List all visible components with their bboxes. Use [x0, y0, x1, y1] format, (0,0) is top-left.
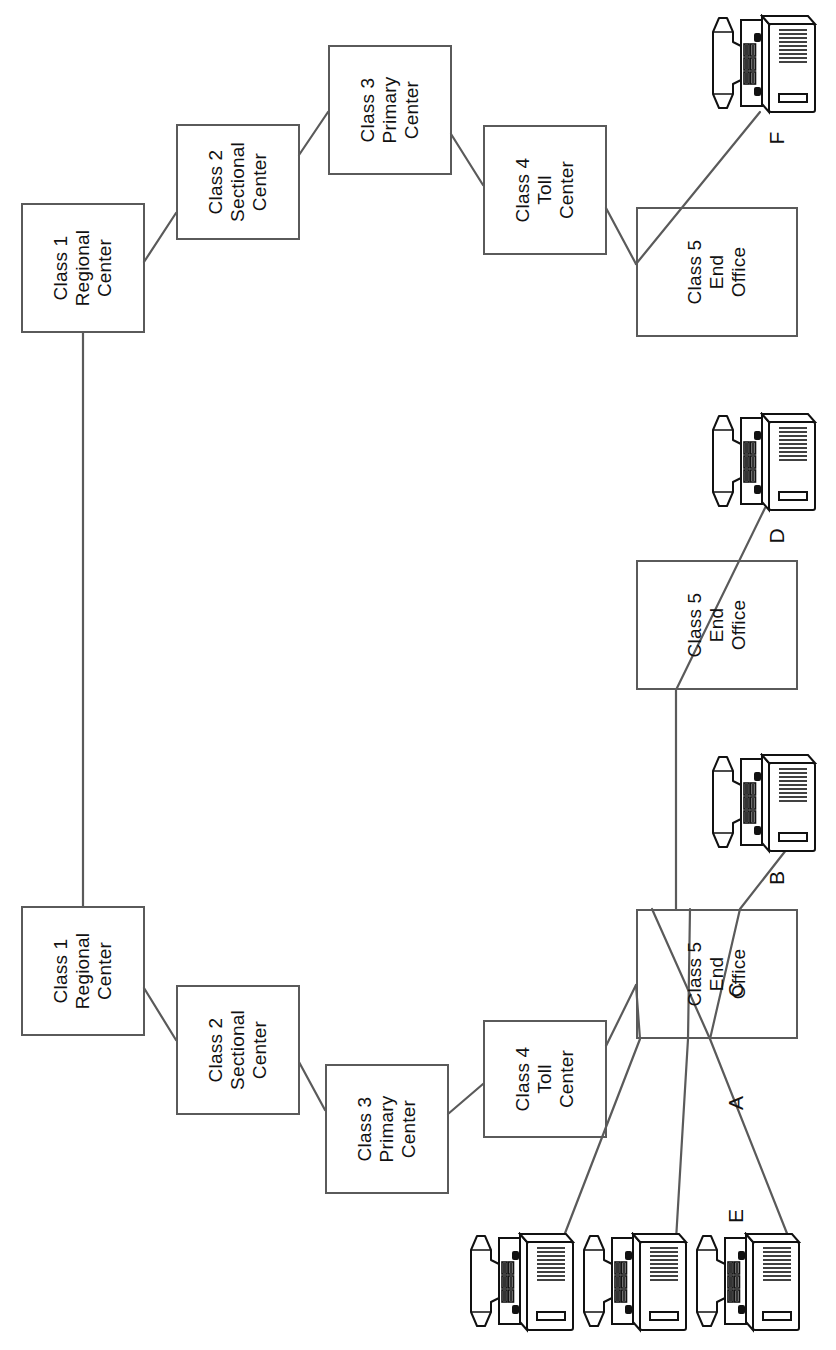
- phone-f: [712, 14, 828, 124]
- label-e: E: [724, 1201, 748, 1231]
- node-label-line-1: Class 1: [50, 230, 72, 307]
- node-label-pc-bot: Class 3PrimaryCenter: [354, 1096, 420, 1163]
- node-label-line-2: Toll: [534, 1047, 556, 1112]
- node-label-rc-bot: Class 1RegionalCenter: [50, 933, 116, 1010]
- node-label-line-2: Sectional: [227, 142, 249, 222]
- node-label-tc-top: Class 4TollCenter: [512, 158, 578, 223]
- node-label-eo-mid: Class 5EndOffice: [684, 593, 750, 658]
- node-rc-bot: Class 1RegionalCenter: [21, 906, 145, 1036]
- node-eo-top: Class 5EndOffice: [636, 207, 798, 337]
- edge-tc-top-eo-top: [606, 208, 636, 264]
- edge-tc-bot-eo-bot: [606, 985, 636, 1046]
- edge-rc-top-sc-top: [144, 213, 176, 262]
- node-pc-bot: Class 3PrimaryCenter: [325, 1064, 449, 1194]
- node-label-line-1: Class 3: [357, 77, 379, 144]
- node-tc-top: Class 4TollCenter: [483, 125, 607, 255]
- phone-b: [712, 753, 828, 863]
- node-label-line-2: End: [706, 240, 728, 305]
- edge-rc-bot-sc-bot: [144, 988, 176, 1040]
- node-label-line-2: Regional: [72, 933, 94, 1010]
- label-d: D: [765, 521, 789, 551]
- node-label-line-1: Class 5: [684, 942, 706, 1007]
- phone-d: [712, 412, 828, 522]
- node-label-eo-top: Class 5EndOffice: [684, 240, 750, 305]
- node-label-tc-bot: Class 4TollCenter: [512, 1047, 578, 1112]
- telephone-icon: [583, 1232, 699, 1338]
- node-tc-bot: Class 4TollCenter: [483, 1020, 607, 1138]
- node-label-line-2: Regional: [72, 230, 94, 307]
- edge-sc-top-pc-top: [299, 112, 328, 155]
- edge-pc-bot-tc-bot: [448, 1084, 483, 1114]
- phone-c: [696, 1232, 812, 1342]
- telephone-icon: [712, 412, 828, 518]
- node-label-line-3: Center: [556, 1047, 578, 1112]
- node-label-line-3: Office: [728, 593, 750, 658]
- node-label-line-3: Office: [728, 240, 750, 305]
- node-eo-bot: Class 5EndOffice: [636, 909, 798, 1039]
- node-label-line-3: Center: [556, 158, 578, 223]
- node-rc-top: Class 1RegionalCenter: [21, 203, 145, 333]
- node-label-line-3: Center: [94, 933, 116, 1010]
- node-label-rc-top: Class 1RegionalCenter: [50, 230, 116, 307]
- node-eo-mid: Class 5EndOffice: [636, 560, 798, 690]
- node-label-sc-bot: Class 2SectionalCenter: [205, 1010, 271, 1090]
- node-label-line-3: Center: [249, 142, 271, 222]
- node-label-line-3: Center: [94, 230, 116, 307]
- telephone-icon: [712, 14, 828, 120]
- phone-a: [583, 1232, 699, 1342]
- node-label-line-1: Class 2: [205, 142, 227, 222]
- node-label-line-1: Class 1: [50, 933, 72, 1010]
- node-label-line-1: Class 5: [684, 240, 706, 305]
- node-pc-top: Class 3PrimaryCenter: [328, 45, 452, 175]
- node-label-line-3: Center: [401, 77, 423, 144]
- node-label-sc-top: Class 2SectionalCenter: [205, 142, 271, 222]
- node-label-line-1: Class 4: [512, 158, 534, 223]
- node-label-line-1: Class 4: [512, 1047, 534, 1112]
- label-b: B: [765, 863, 789, 893]
- label-f: F: [765, 123, 789, 153]
- node-label-line-2: Primary: [376, 1096, 398, 1163]
- telephone-icon: [696, 1232, 812, 1338]
- phone-e: [470, 1232, 586, 1342]
- node-label-line-2: End: [706, 593, 728, 658]
- node-label-line-1: Class 5: [684, 593, 706, 658]
- node-label-line-3: Center: [398, 1096, 420, 1163]
- telephone-icon: [712, 753, 828, 859]
- edge-sc-bot-pc-bot: [299, 1062, 325, 1110]
- telephone-icon: [470, 1232, 586, 1338]
- node-label-line-1: Class 3: [354, 1096, 376, 1163]
- node-label-line-2: Sectional: [227, 1010, 249, 1090]
- label-a: A: [724, 1088, 748, 1118]
- label-c: C: [724, 975, 748, 1005]
- diagram-canvas: Class 1RegionalCenterClass 2SectionalCen…: [0, 0, 836, 1350]
- node-sc-top: Class 2SectionalCenter: [176, 124, 300, 240]
- node-label-line-1: Class 2: [205, 1010, 227, 1090]
- node-label-pc-top: Class 3PrimaryCenter: [357, 77, 423, 144]
- node-sc-bot: Class 2SectionalCenter: [176, 985, 300, 1115]
- edge-pc-top-tc-top: [451, 134, 483, 185]
- node-label-line-2: Toll: [534, 158, 556, 223]
- node-label-line-2: Primary: [379, 77, 401, 144]
- node-label-line-3: Center: [249, 1010, 271, 1090]
